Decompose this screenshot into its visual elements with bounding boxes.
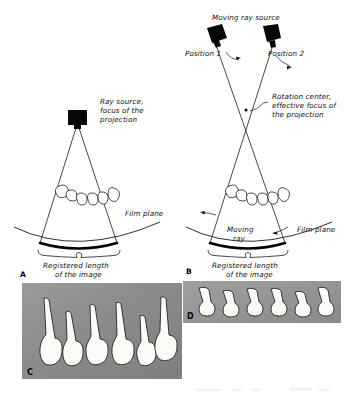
arch-tooth-5 [268,192,278,204]
arch-tooth-6 [108,188,119,202]
arch-tooth-3 [77,193,88,205]
scan-smudge-1 [196,389,222,391]
arch-tooth-2 [236,190,247,201]
panel-a-source-label-line2: focus of the [100,106,144,115]
panel-b-moving-source-label: Moving ray source [212,13,280,22]
panel-b-rotation-label-line3: the projection [272,110,324,119]
panel-b-rotation-center-dot [244,108,247,111]
arch-tooth-6 [278,188,289,202]
panel-b-moving-ray-label-line1: Moving [227,225,254,234]
panel-a-film-plane-label: Film plane [125,209,164,218]
panel-a-letter: A [20,270,26,279]
figure-container: Ray source, focus of the projection Film… [0,0,363,395]
panel-a-registered-label-line2: of the image [55,270,102,279]
panel-b-rotation-label-line2: effective focus of [272,101,337,110]
arch-tooth-4 [88,193,99,205]
scan-smudge-4 [290,388,312,390]
panel-d-radiograph: D [183,281,341,323]
ray-source-neck [74,124,81,129]
scan-smudge-2 [232,389,242,391]
panel-b-letter: B [186,267,192,276]
panel-b-rotation-label-line1: Rotation center, [272,92,331,101]
panel-b-registered-label-line1: Registered length [212,261,278,270]
arch-tooth-4 [258,193,269,205]
panel-b-position-2-label: Position 2 [268,49,304,58]
arch-tooth-5 [98,192,108,204]
panel-c-letter: C [27,368,33,377]
panel-a-registered-label-line1: Registered length [43,261,109,270]
arch-tooth-2 [66,190,77,201]
panel-b-film-plane-label: Film plane [297,225,336,234]
scan-smudge-5 [318,389,330,391]
panel-d-letter: D [187,312,194,321]
dental-projection-figure: Ray source, focus of the projection Film… [0,0,363,395]
ray-source-body [68,110,87,125]
panel-a-source-label-line3: projection [99,115,137,124]
panel-b-position-1-label: Position 1 [185,49,221,58]
panel-a-source-label-line1: Ray source, [100,97,143,106]
panel-b-registered-label-line2: of the image [226,270,273,279]
panel-b-moving-ray-label-line2: ray [233,234,246,243]
arch-tooth-3 [247,193,258,205]
panel-c-radiograph: C [22,283,182,379]
scan-smudge-3 [252,389,260,391]
